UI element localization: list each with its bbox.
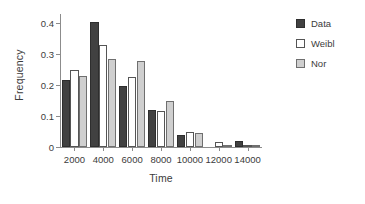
chart-legend: DataWeiblNor: [296, 18, 335, 69]
bar: [235, 141, 243, 147]
bar-chart-figure: Frequency 00.10.20.30.4 2000400060008000…: [0, 0, 365, 204]
bar: [215, 142, 223, 147]
x-tick-mark: [190, 147, 191, 151]
x-tick-label: 8000: [150, 154, 171, 165]
legend-label: Nor: [311, 58, 326, 69]
x-tick-mark: [132, 147, 133, 151]
bar: [243, 145, 251, 147]
y-tick-mark: [56, 85, 60, 86]
y-tick-label: 0.2: [41, 80, 54, 91]
y-tick-mark: [56, 54, 60, 55]
plot-area: 00.10.20.30.4 20004000600080001000012000…: [60, 14, 262, 147]
x-tick-mark: [74, 147, 75, 151]
bar: [195, 133, 203, 147]
bar: [148, 110, 156, 147]
bar: [62, 80, 70, 147]
bar: [90, 22, 98, 147]
x-tick-label: 10000: [177, 154, 203, 165]
x-tick-label: 6000: [122, 154, 143, 165]
legend-item[interactable]: Nor: [296, 58, 335, 69]
x-tick-mark: [219, 147, 220, 151]
y-tick-label: 0.3: [41, 49, 54, 60]
x-tick-label: 12000: [205, 154, 231, 165]
legend-swatch-icon: [296, 39, 305, 48]
legend-item[interactable]: Data: [296, 18, 335, 29]
x-tick-label: 4000: [93, 154, 114, 165]
y-tick-label: 0.1: [41, 111, 54, 122]
bar: [128, 77, 136, 147]
bar: [252, 145, 260, 147]
bar: [79, 76, 87, 147]
bar: [108, 59, 116, 147]
legend-swatch-icon: [296, 19, 305, 28]
legend-label: Data: [311, 18, 331, 29]
y-axis-title: Frequency: [8, 0, 30, 150]
bar: [137, 61, 145, 147]
bar: [186, 132, 194, 147]
x-tick-label: 2000: [64, 154, 85, 165]
x-tick-label: 14000: [234, 154, 260, 165]
bar: [119, 86, 127, 147]
y-tick-mark: [56, 116, 60, 117]
bar: [223, 145, 231, 147]
y-tick-mark: [56, 147, 60, 148]
x-tick-mark: [161, 147, 162, 151]
x-tick-mark: [248, 147, 249, 151]
x-axis-title: Time: [60, 172, 262, 184]
y-tick-label: 0: [49, 142, 54, 153]
y-tick-label: 0.4: [41, 18, 54, 29]
bar: [157, 111, 165, 147]
x-tick-mark: [103, 147, 104, 151]
bar: [166, 101, 174, 147]
bar: [70, 70, 78, 147]
legend-swatch-icon: [296, 59, 305, 68]
bar: [177, 135, 185, 147]
y-tick-mark: [56, 23, 60, 24]
bar: [99, 45, 107, 147]
y-axis-title-text: Frequency: [13, 49, 25, 100]
legend-item[interactable]: Weibl: [296, 38, 335, 49]
legend-label: Weibl: [311, 38, 335, 49]
